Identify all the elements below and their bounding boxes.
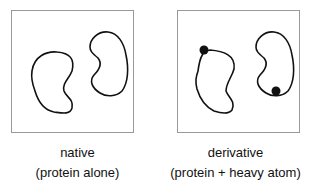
derivative-caption: derivative (protein + heavy atom) bbox=[160, 143, 311, 183]
derivative-panel bbox=[177, 10, 300, 133]
derivative-subtitle: (protein + heavy atom) bbox=[160, 163, 311, 183]
native-subtitle: (protein alone) bbox=[0, 163, 155, 183]
heavy-atom-icon bbox=[200, 46, 209, 55]
derivative-molecules-drawing bbox=[178, 11, 301, 134]
native-title: native bbox=[0, 143, 155, 163]
derivative-title: derivative bbox=[160, 143, 311, 163]
protein-molecule-right bbox=[256, 32, 294, 96]
native-panel bbox=[11, 10, 134, 133]
native-caption: native (protein alone) bbox=[0, 143, 155, 183]
native-molecules-drawing bbox=[12, 11, 135, 134]
heavy-atom-icon bbox=[272, 87, 281, 96]
protein-molecule-right bbox=[90, 32, 128, 96]
protein-molecule-left bbox=[196, 50, 234, 113]
protein-molecule-left bbox=[32, 52, 73, 113]
